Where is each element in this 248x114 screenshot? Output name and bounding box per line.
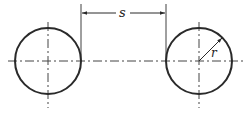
right-circle-group: r bbox=[166, 22, 232, 108]
two-circles-spacing-diagram: r s bbox=[0, 0, 248, 114]
radius-label: r bbox=[211, 46, 218, 60]
spacing-label: s bbox=[119, 5, 126, 20]
left-circle-group bbox=[15, 22, 81, 108]
